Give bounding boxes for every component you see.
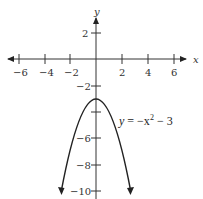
x-tick-label: −6 bbox=[13, 67, 28, 78]
y-tick-label: −8 bbox=[76, 160, 91, 171]
y-tick-label: −6 bbox=[76, 133, 91, 144]
x-tick-label: −4 bbox=[39, 67, 54, 78]
x-tick-label: 6 bbox=[171, 67, 177, 78]
y-tick-label: 2 bbox=[82, 28, 88, 39]
x-tick-label: −2 bbox=[64, 67, 79, 78]
y-axis-label: y bbox=[93, 6, 100, 17]
arrowhead-left bbox=[58, 187, 65, 195]
x-tick-label: 2 bbox=[119, 67, 125, 78]
y-tick-label: −10 bbox=[70, 186, 91, 197]
arrowhead-right bbox=[127, 187, 134, 195]
parabola-graph: y x −6 −4 −2 2 4 6 2 −2 −6 −8 −10 y = −x… bbox=[0, 0, 203, 199]
y-tick-label: −2 bbox=[76, 81, 91, 92]
x-axis-label: x bbox=[193, 54, 199, 65]
x-tick-label: 4 bbox=[145, 67, 151, 78]
equation-label: y = −x2 − 3 bbox=[118, 113, 173, 128]
